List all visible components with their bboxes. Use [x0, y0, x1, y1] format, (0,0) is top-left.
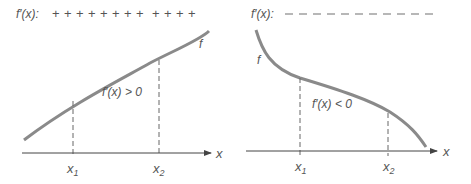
left-tick-x2: x2 — [152, 161, 165, 178]
left-x-axis-label: x — [215, 146, 223, 161]
svg-text:+: + — [152, 6, 160, 21]
svg-text:+: + — [136, 6, 144, 21]
svg-text:+: + — [52, 6, 60, 21]
left-sign-marks: + + + + + + + + + + + + — [52, 6, 196, 21]
left-sign-label: f′(x): — [16, 7, 39, 21]
monotonicity-diagram: f′(x): + + + + + + + + + + + + f f′(x) >… — [0, 0, 471, 184]
right-panel-decreasing: f′(x): f f′(x) < 0 x x1 x2 — [246, 7, 450, 176]
svg-text:+: + — [188, 6, 196, 21]
right-tick-x2: x2 — [382, 159, 395, 176]
right-curve-label: f — [257, 53, 262, 67]
right-sign-label: f′(x): — [251, 7, 274, 21]
svg-text:+: + — [112, 6, 120, 21]
left-panel-increasing: f′(x): + + + + + + + + + + + + f f′(x) >… — [16, 6, 223, 178]
right-tick-x1: x1 — [294, 159, 307, 176]
left-derivative-condition: f′(x) > 0 — [102, 85, 142, 99]
svg-text:+: + — [164, 6, 172, 21]
left-curve-label: f — [199, 37, 204, 51]
svg-text:+: + — [76, 6, 84, 21]
svg-text:+: + — [64, 6, 72, 21]
svg-text:+: + — [124, 6, 132, 21]
svg-text:+: + — [176, 6, 184, 21]
decreasing-curve — [256, 30, 426, 147]
svg-text:+: + — [100, 6, 108, 21]
right-x-axis-label: x — [442, 144, 450, 159]
svg-text:+: + — [88, 6, 96, 21]
right-derivative-condition: f′(x) < 0 — [312, 97, 352, 111]
left-tick-x1: x1 — [66, 161, 79, 178]
